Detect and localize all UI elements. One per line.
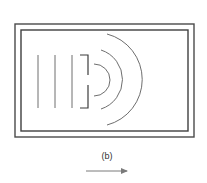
outer-frame <box>15 24 194 137</box>
diffracted-wavefronts <box>94 34 142 125</box>
slit-barrier <box>80 55 88 108</box>
direction-arrow <box>86 168 128 174</box>
arc-1 <box>94 64 110 96</box>
figure-label: (b) <box>96 151 118 161</box>
arc-3 <box>107 34 142 125</box>
barrier-upper <box>80 55 88 75</box>
arrow-head-icon <box>121 168 128 174</box>
barrier-lower <box>80 85 88 108</box>
inner-frame <box>21 30 188 131</box>
incident-wavefronts <box>38 55 72 108</box>
arc-2 <box>101 50 122 109</box>
